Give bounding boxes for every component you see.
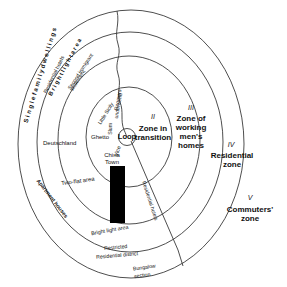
zone-3-numeral: III xyxy=(182,104,200,112)
burgess-concentric-zone-diagram: II Zone in transition III Zone of workin… xyxy=(0,0,287,287)
slum-label: Slum xyxy=(108,123,114,135)
china-town-label-line2: Town xyxy=(97,159,127,166)
zone-2-numeral: II xyxy=(145,113,161,121)
zone-5-numeral: V xyxy=(241,194,259,202)
china-town-label-line1: China xyxy=(97,152,127,159)
loop-label: Loop xyxy=(110,133,144,141)
black-industrial-block xyxy=(110,166,125,223)
ghetto-label: Ghetto xyxy=(91,134,109,141)
zone-3-label-line4: homes xyxy=(173,142,209,151)
zone-4-numeral: IV xyxy=(222,141,240,149)
zone-4-label-line2: zone xyxy=(208,161,256,170)
zone-5-label-line2: zone xyxy=(225,215,275,224)
deutschland-label: Deutschland xyxy=(43,140,76,147)
